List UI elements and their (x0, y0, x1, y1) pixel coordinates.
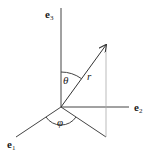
r-label: r (87, 70, 92, 82)
phi-label: φ (57, 116, 63, 128)
theta-label: θ (63, 74, 69, 86)
e2-label: e2 (134, 101, 143, 115)
e1-label: e1 (7, 138, 16, 152)
spherical-coordinates-diagram: e3 e2 e1 r θ φ (0, 0, 151, 154)
e1-axis (16, 107, 61, 137)
e3-label: e3 (45, 8, 54, 22)
projection-line (61, 107, 106, 137)
